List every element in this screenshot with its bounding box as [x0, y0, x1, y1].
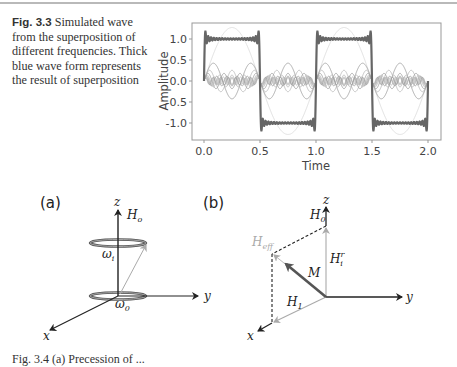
h1-label: H1	[286, 295, 303, 311]
x-axis: 0.0 0.5 1.0 1.5 2.0 Time	[195, 140, 437, 173]
moment-vector	[120, 245, 146, 294]
m-label: M	[307, 266, 321, 280]
panel-label-a: (a)	[40, 194, 61, 212]
z-axis-label: z	[113, 195, 121, 209]
diagram-b: (b) z H0 Heff M Hri H1 y x	[203, 193, 413, 343]
y-tick-label: 1.0	[170, 33, 188, 46]
field-label-h0: Ho	[126, 208, 142, 224]
y-axis-label: y	[405, 290, 413, 304]
h-eff-label: Heff	[251, 235, 274, 251]
wave-chart: 1.0 0.5 0.0 -0.5 -1.0 Amplitude 0.0 0.5 …	[157, 23, 441, 173]
x-tick-label: 0.0	[195, 145, 213, 158]
diagram-a: (a) z Ho ωi ω0 x y	[40, 194, 211, 343]
dashed-line-top	[272, 226, 326, 254]
y-tick-label: 0.5	[170, 54, 188, 67]
x-tick-label: 2.0	[419, 145, 437, 158]
y-axis-label: Amplitude	[157, 52, 171, 111]
y-axis-label: y	[203, 289, 211, 303]
h0-label: H0	[309, 208, 326, 224]
omega-i-label: ωi	[102, 247, 115, 263]
z-axis-label: z	[322, 193, 330, 207]
y-axis: 1.0 0.5 0.0 -0.5 -1.0 Amplitude	[157, 33, 192, 130]
h-ir-label: Hri	[329, 250, 345, 268]
x-tick-label: 1.0	[307, 145, 325, 158]
x-tick-label: 0.5	[251, 145, 269, 158]
x-axis-label: x	[43, 329, 50, 343]
next-figure-caption-partial: Fig. 3.4 (a) Precession of ...	[12, 352, 145, 367]
x-axis-arrow	[258, 323, 272, 331]
y-tick-label: -1.0	[166, 117, 187, 130]
x-tick-label: 1.5	[363, 145, 381, 158]
y-tick-label: 0.0	[170, 75, 188, 88]
x-axis-arrow	[50, 296, 118, 330]
panel-label-b: (b)	[203, 194, 224, 212]
x-axis-label: Time	[301, 159, 330, 173]
x-axis-label: x	[247, 329, 254, 343]
